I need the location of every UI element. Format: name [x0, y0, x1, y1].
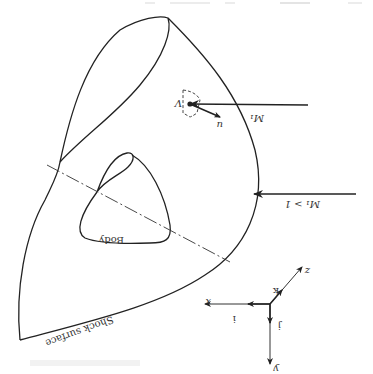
freestream-mach-label: M₁ — [250, 113, 265, 124]
body: Body — [80, 153, 170, 246]
shock-surface — [19, 17, 259, 340]
mach-condition-label: M₁ > 1 — [285, 199, 321, 210]
volume-label: V — [173, 98, 182, 109]
body-label: Body — [98, 235, 124, 246]
symmetry-axis-line — [47, 165, 230, 262]
y-axis-label: y — [273, 364, 280, 374]
shock-surface-label: Shock surface — [44, 314, 115, 349]
coordinate-axes: x i y j z k — [205, 266, 311, 374]
velocity-label: u — [217, 120, 223, 131]
unit-k-label: k — [272, 286, 279, 297]
bleed-through-text — [145, 2, 362, 4]
x-axis-label: x — [205, 297, 211, 308]
bleed-through-smudge — [30, 360, 140, 366]
fluid-element: V u — [173, 90, 223, 131]
unit-j-label: j — [278, 321, 282, 332]
freestream-arrow: M₁ — [190, 104, 308, 124]
shock-surface-diagram: Body Shock surface M₁ V u M₁ > 1 — [0, 0, 373, 374]
unit-i-label: i — [233, 314, 236, 325]
diagram-canvas: Body Shock surface M₁ V u M₁ > 1 — [0, 0, 373, 374]
z-axis-label: z — [304, 266, 311, 277]
mach-condition-arrow: M₁ > 1 — [254, 194, 356, 210]
